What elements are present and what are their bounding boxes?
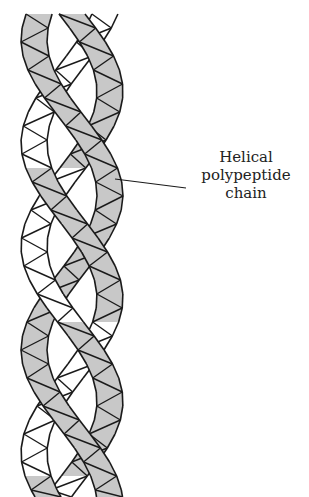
helix-ribbon-segment xyxy=(53,420,90,434)
helix-ribbon-segment xyxy=(88,56,120,70)
helix-ribbon-segment xyxy=(23,364,53,378)
helix-ribbon-segment xyxy=(22,322,52,336)
label-line-1: Helical xyxy=(186,148,306,166)
helix-ribbon-segment xyxy=(94,406,122,420)
helix-ribbon-segment xyxy=(96,294,123,308)
helix-ribbon-segment xyxy=(31,490,61,497)
helix-ribbon-segment xyxy=(22,224,51,238)
helix-ribbon-segment xyxy=(56,56,93,70)
helix-ribbon-segment xyxy=(21,28,48,42)
helix-ribbon-segment xyxy=(97,84,123,98)
helix-ribbon-segment xyxy=(91,476,122,490)
helix-ribbon-segment xyxy=(23,56,54,70)
helix-ribbon-segment xyxy=(21,238,47,252)
helix-ribbon-segment xyxy=(55,112,92,126)
helix-ribbon-segment xyxy=(23,112,54,126)
helix-ribbon-segment xyxy=(21,434,50,448)
helical-polypeptide-chain-label: Helical polypeptide chain xyxy=(186,148,306,202)
helix-ribbon-segment xyxy=(57,322,94,336)
helix-ribbon-segment xyxy=(96,392,123,406)
helix-ribbon-segment xyxy=(94,280,122,294)
helix-ribbon-segment xyxy=(91,210,122,224)
helix-ribbon-segment xyxy=(24,420,55,434)
helix-ribbon-segment xyxy=(21,252,50,266)
helix-ribbon-segment xyxy=(51,210,88,224)
helix-ribbon-segment xyxy=(24,266,55,280)
helix-ribbon-segment xyxy=(88,112,120,126)
label-line-2: polypeptide xyxy=(186,166,306,184)
helix-ribbon-segment xyxy=(95,196,123,210)
helix-ribbon-segment xyxy=(26,168,58,182)
helix-ribbon-segment xyxy=(21,42,49,56)
helix-ribbon-segment xyxy=(22,154,52,168)
helix-ribbon-segment xyxy=(87,364,119,378)
helix-ribbon-segment xyxy=(93,378,123,392)
helix-ribbon-segment xyxy=(21,336,48,350)
helix-ribbon-segment xyxy=(22,462,51,476)
helix-ribbon-segment xyxy=(25,476,57,490)
helix-ribbon-segment xyxy=(22,14,52,28)
helix-ribbon-segment xyxy=(21,126,49,140)
helix-ribbon-segment xyxy=(93,308,123,322)
helix-ribbon-segment xyxy=(53,266,90,280)
label-line-3: chain xyxy=(186,184,306,202)
label-leader-line xyxy=(115,179,186,188)
helix-ribbon-segment xyxy=(89,420,120,434)
helix-ribbon-segment xyxy=(21,448,47,462)
helix-ribbon-segment xyxy=(96,182,123,196)
helix-ribbon-segment xyxy=(89,266,120,280)
helix-ribbon-segment xyxy=(93,70,122,84)
triple-helix-diagram xyxy=(0,0,309,497)
helix-ribbon-segment xyxy=(92,168,122,182)
helix-ribbon-segment xyxy=(21,350,49,364)
helix-ribbon-segment xyxy=(94,98,123,112)
helix-ribbon-segment xyxy=(21,140,48,154)
helix-ribbon-segment xyxy=(85,154,118,168)
helix-ribbon-segment xyxy=(95,490,122,497)
